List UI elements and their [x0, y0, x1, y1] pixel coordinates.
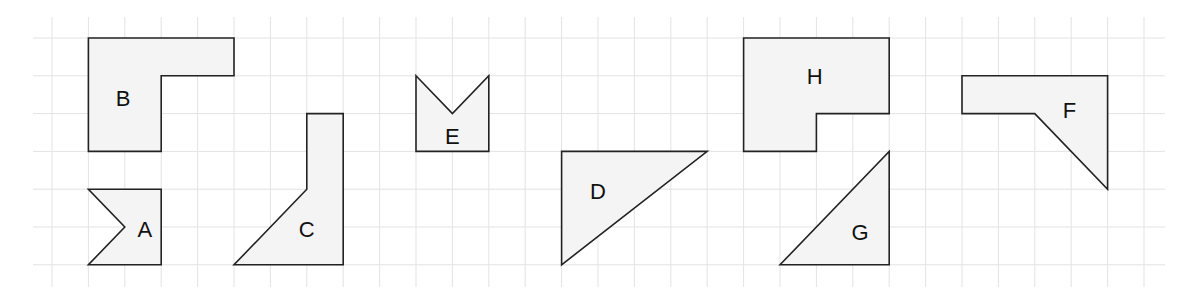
shape-polygon [780, 151, 889, 264]
shape-label: D [590, 179, 606, 204]
shape-label: A [137, 217, 152, 242]
shape-g: G [780, 151, 889, 264]
shape-label: E [445, 124, 460, 149]
shape-h: H [744, 38, 890, 151]
shape-label: F [1063, 98, 1076, 123]
shape-polygon [744, 38, 890, 151]
shapes-diagram: ABCDEFGH [0, 0, 1191, 296]
shape-label: G [852, 220, 869, 245]
shape-polygon [88, 38, 234, 151]
shape-label: C [299, 217, 315, 242]
shape-label: B [116, 86, 131, 111]
shape-label: H [807, 64, 823, 89]
shape-b: B [88, 38, 234, 151]
